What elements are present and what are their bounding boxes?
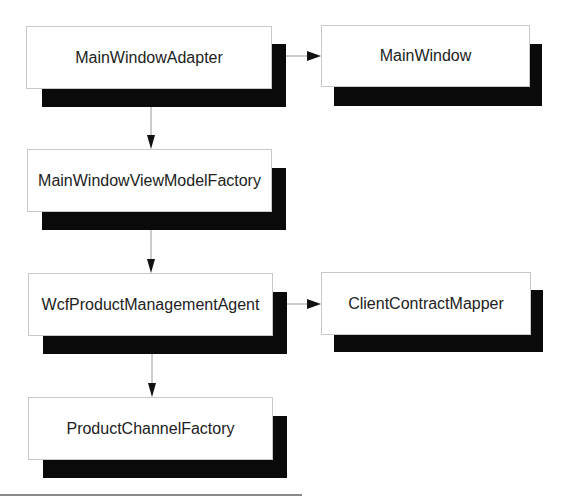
edge-adapter-to-viewmodelfactory bbox=[147, 107, 155, 149]
node-box: WcfProductManagementAgent bbox=[28, 273, 273, 336]
node-box: MainWindow bbox=[321, 25, 530, 87]
node-label: ProductChannelFactory bbox=[66, 420, 234, 438]
node-label: MainWindowViewModelFactory bbox=[38, 172, 261, 190]
node-label: MainWindow bbox=[380, 47, 472, 65]
edge-agent-to-mapper bbox=[287, 299, 321, 309]
node-box: ProductChannelFactory bbox=[28, 397, 273, 460]
node-box: MainWindowViewModelFactory bbox=[27, 149, 272, 212]
node-label: MainWindowAdapter bbox=[75, 49, 223, 67]
edge-agent-to-channelfactory bbox=[148, 354, 156, 397]
edge-adapter-to-mainwindow bbox=[286, 51, 321, 61]
dependency-diagram: MainWindowAdapter MainWindow MainWindowV… bbox=[0, 0, 566, 501]
node-box: ClientContractMapper bbox=[321, 272, 531, 335]
edge-viewmodelfactory-to-agent bbox=[147, 230, 155, 273]
node-label: WcfProductManagementAgent bbox=[42, 296, 260, 314]
node-box: MainWindowAdapter bbox=[26, 26, 272, 89]
bottom-rule-divider bbox=[0, 494, 302, 496]
node-label: ClientContractMapper bbox=[348, 295, 504, 313]
